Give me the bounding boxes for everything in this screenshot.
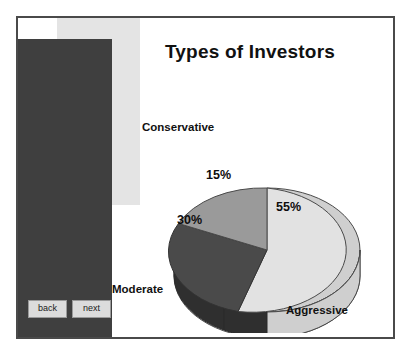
back-button[interactable]: back — [28, 300, 67, 318]
pie-label-aggressive: Aggressive — [286, 303, 348, 317]
pie-value-conservative: 15% — [206, 168, 231, 183]
nav-dark-panel — [18, 39, 112, 339]
navigation-buttons: back next — [28, 300, 111, 318]
pie-label-moderate: Moderate — [112, 282, 163, 296]
pie-value-aggressive: 55% — [276, 200, 301, 215]
slide-root: back next Types of Investors — [0, 0, 413, 361]
slide-frame: back next Types of Investors — [16, 16, 395, 339]
pie-label-conservative: Conservative — [142, 120, 214, 134]
chart-title: Types of Investors — [121, 40, 379, 63]
pie-value-moderate: 30% — [177, 213, 202, 228]
next-button[interactable]: next — [72, 300, 111, 318]
